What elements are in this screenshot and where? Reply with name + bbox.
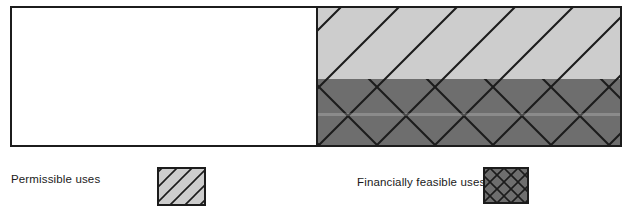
diagram-root: Permissible uses Financially feasible us… [0,0,632,221]
legend-label-permissible: Permissible uses [11,173,100,185]
legend-swatch-financially-feasible [484,168,528,203]
legend-label-financially-feasible: Financially feasible uses [357,176,485,188]
legend-swatch-permissible [158,168,205,205]
permissible-uses-band [317,7,621,79]
use-spectrum-diagram [0,0,632,221]
blank-segment [11,7,317,146]
financially-feasible-uses-band [317,79,621,146]
scan-streak [317,113,621,116]
